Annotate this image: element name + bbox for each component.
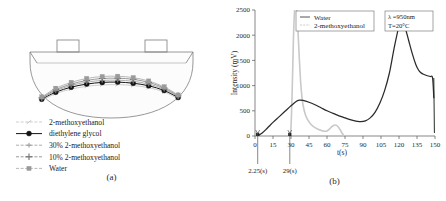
series-water-tail bbox=[434, 78, 435, 133]
time-markers: 2.25(s)29(s) bbox=[248, 130, 297, 175]
wavelength-label: λ =950nm bbox=[388, 13, 416, 20]
x-tick-label: 0 bbox=[253, 141, 257, 149]
y-tick-label: 500 bbox=[240, 107, 251, 115]
legend-label: 10% 2-methoxyethanol bbox=[49, 153, 120, 162]
x-tick-label: 45 bbox=[306, 141, 314, 149]
data-marker bbox=[162, 85, 166, 89]
legend-item-2: 30% 2-methoxyethanol bbox=[16, 141, 120, 150]
x-tick-label: 120 bbox=[394, 141, 405, 149]
data-marker bbox=[27, 143, 32, 148]
legend-label-2methoxyethanol: 2-methoxyethanol bbox=[314, 22, 365, 30]
series-water bbox=[258, 23, 434, 136]
x-axis-title: t(s) bbox=[337, 148, 348, 157]
x-tick-label: 90 bbox=[360, 141, 368, 149]
panel-a-plot: 2-methoxyethanoldiethylene glycol30% 2-m… bbox=[0, 0, 223, 201]
y-tick-label: 0 bbox=[247, 132, 251, 140]
conditions-annotation: λ =950nm T=20°C bbox=[385, 11, 433, 31]
x-tick-label: 15 bbox=[270, 141, 278, 149]
panel-a: 2-methoxyethanoldiethylene glycol30% 2-m… bbox=[0, 0, 223, 201]
x-tick-label: 105 bbox=[376, 141, 387, 149]
x-axis-ticks: 0153045607590105120135150 bbox=[253, 136, 441, 149]
data-marker bbox=[27, 131, 32, 136]
y-tick-label: 2000 bbox=[236, 32, 251, 40]
x-tick-label: 30 bbox=[288, 141, 296, 149]
legend-item-1: diethylene glycol bbox=[16, 129, 102, 138]
vessel-outline bbox=[30, 40, 193, 118]
data-marker bbox=[147, 79, 151, 83]
data-marker bbox=[27, 166, 31, 170]
data-marker bbox=[26, 154, 33, 161]
panel-b-legend: Water 2-methoxyethanol bbox=[296, 11, 374, 31]
legend-item-0: 2-methoxyethanol bbox=[16, 118, 104, 127]
data-marker bbox=[54, 86, 58, 90]
figure-container: 2-methoxyethanoldiethylene glycol30% 2-m… bbox=[0, 0, 446, 201]
time-marker-1: 29(s) bbox=[283, 130, 297, 175]
y-tick-label: 2500 bbox=[236, 6, 251, 14]
y-axis-title: Intensity (mV) bbox=[230, 50, 239, 95]
x-tick-label: 150 bbox=[430, 141, 441, 149]
marker-label: 2.25(s) bbox=[248, 167, 267, 175]
data-marker bbox=[85, 76, 89, 80]
panel-a-caption: (a) bbox=[0, 172, 223, 182]
panel-b: 05001000150020002500 0153045607590105120… bbox=[223, 0, 446, 201]
panel-b-plot: 05001000150020002500 0153045607590105120… bbox=[223, 0, 446, 201]
time-marker-0: 2.25(s) bbox=[248, 130, 267, 175]
marker-label: 29(s) bbox=[283, 167, 297, 175]
legend-label: 2-methoxyethanol bbox=[49, 118, 104, 127]
panel-a-legend: 2-methoxyethanoldiethylene glycol30% 2-m… bbox=[16, 118, 120, 173]
data-marker bbox=[69, 80, 73, 84]
data-marker bbox=[40, 95, 44, 99]
data-marker bbox=[131, 76, 135, 80]
x-tick-label: 60 bbox=[324, 141, 332, 149]
legend-label: 30% 2-methoxyethanol bbox=[49, 141, 120, 150]
vessel-fixture-right bbox=[145, 40, 167, 52]
vessel-fixture-left bbox=[57, 40, 79, 52]
panel-b-caption: (b) bbox=[223, 176, 446, 186]
data-marker bbox=[100, 74, 104, 78]
legend-label-water: Water bbox=[314, 14, 331, 22]
x-tick-label: 135 bbox=[412, 141, 423, 149]
temperature-label: T=20°C bbox=[388, 22, 410, 29]
data-marker bbox=[116, 74, 120, 78]
legend-label: diethylene glycol bbox=[49, 129, 102, 138]
legend-item-3: 10% 2-methoxyethanol bbox=[16, 153, 120, 162]
data-marker bbox=[176, 93, 180, 97]
